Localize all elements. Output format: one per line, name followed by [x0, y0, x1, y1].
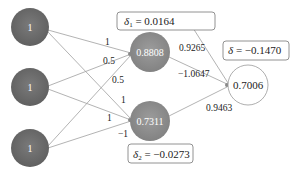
delta1-value: = 0.0164 — [133, 15, 175, 27]
input-node-2-label: 1 — [28, 82, 33, 93]
delta1-box: δ1 = 0.0164 — [117, 12, 215, 30]
neural-network-diagram: 1 0.5 0.5 1 1 −1 0.9265 −1.0647 0.9463 1… — [0, 0, 290, 177]
hidden-node-2: 0.7311 — [130, 101, 170, 141]
delta-out-box: δ = −0.1470 — [223, 41, 289, 60]
svg-text:δ1 = 0.0164: δ1 = 0.0164 — [124, 15, 175, 29]
input-node-1: 1 — [11, 8, 49, 46]
weight-in2-h2: 1 — [107, 113, 112, 123]
output-node: 0.7006 — [228, 65, 268, 105]
weight-in1-h1: 1 — [105, 37, 110, 47]
edge-in2-h2 — [48, 89, 131, 120]
weight-h1-out: −1.0647 — [178, 69, 210, 79]
delta2-box: δ2 = −0.0273 — [128, 144, 193, 163]
weight-in1-h2: 1 — [121, 95, 126, 105]
edge-in1-h1 — [48, 30, 131, 53]
input-node-2: 1 — [11, 68, 49, 106]
weight-in3-h1: 0.5 — [112, 75, 124, 85]
weight-bias-out: 0.9265 — [179, 43, 205, 53]
output-node-label: 0.7006 — [233, 79, 264, 91]
hidden-node-2-label: 0.7311 — [136, 116, 163, 127]
input-node-3-label: 1 — [28, 143, 33, 154]
delta-out-value: = −0.1470 — [233, 44, 282, 56]
input-node-3: 1 — [11, 129, 49, 167]
weight-in3-h2: −1 — [118, 129, 128, 139]
input-node-1-label: 1 — [28, 22, 33, 33]
weight-in2-h1: 0.5 — [103, 56, 115, 66]
weight-h2-out: 0.9463 — [206, 103, 232, 113]
svg-text:δ2 = −0.0273: δ2 = −0.0273 — [133, 148, 190, 162]
svg-text:δ = −0.1470: δ = −0.1470 — [228, 44, 282, 56]
delta2-value: = −0.0273 — [142, 148, 191, 160]
hidden-node-1: 0.8808 — [130, 32, 170, 72]
hidden-node-1-label: 0.8808 — [136, 47, 164, 58]
